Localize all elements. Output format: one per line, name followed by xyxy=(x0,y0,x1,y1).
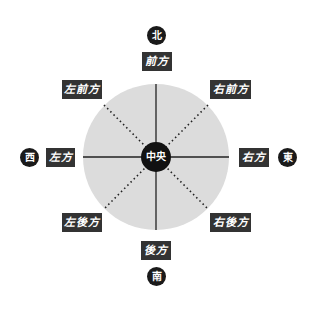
label-front: 前方 xyxy=(142,52,172,71)
label-back-left: 左後方 xyxy=(62,213,102,232)
label-back-right: 右後方 xyxy=(210,213,251,232)
label-back: 後方 xyxy=(141,241,171,260)
label-front-right: 右前方 xyxy=(210,80,251,99)
label-front-left: 左前方 xyxy=(62,80,102,99)
east-marker: 東 xyxy=(278,148,297,167)
label-right: 右方 xyxy=(239,148,269,167)
label-left: 左方 xyxy=(46,148,75,167)
south-marker: 南 xyxy=(147,267,166,286)
west-marker: 西 xyxy=(20,148,39,167)
north-marker: 北 xyxy=(147,26,166,45)
center-marker: 中央 xyxy=(141,142,171,172)
